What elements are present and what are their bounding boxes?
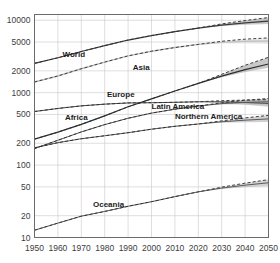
y-tick-label: 10000	[7, 15, 31, 25]
y-tick-label: 1000	[12, 88, 31, 98]
series-label-world: World	[63, 50, 86, 59]
y-tick-label: 50	[21, 182, 31, 192]
x-tick-label: 2010	[165, 243, 184, 253]
x-tick-label: 1980	[95, 243, 114, 253]
x-tick-label: 2050	[259, 243, 278, 253]
chart-canvas: 10205010020050010002000500010000 1950196…	[0, 0, 280, 263]
x-tick-label: 2020	[189, 243, 208, 253]
series-label-oceania: Oceania	[93, 200, 125, 209]
series-label-latin-america: Latin America	[152, 102, 205, 111]
x-tick-label: 1960	[48, 243, 67, 253]
series-label-europe: Europe	[107, 90, 135, 99]
y-tick-label: 5000	[12, 37, 31, 47]
population-log-chart: 10205010020050010002000500010000 1950196…	[0, 0, 280, 263]
x-tick-label: 1970	[72, 243, 91, 253]
x-tick-label: 2000	[142, 243, 161, 253]
y-tick-label: 200	[16, 138, 30, 148]
series-label-asia: Asia	[133, 63, 150, 72]
x-tick-label: 1990	[119, 243, 138, 253]
series-label-africa: Africa	[65, 113, 88, 122]
series-label-northern-america: Northern America	[175, 112, 243, 121]
x-tick-label: 1950	[25, 243, 44, 253]
y-tick-label: 10	[21, 233, 31, 243]
y-tick-label: 100	[16, 160, 30, 170]
x-tick-label: 2030	[212, 243, 231, 253]
y-tick-label: 500	[16, 109, 30, 119]
y-tick-label: 2000	[12, 66, 31, 76]
x-axis-tick-labels: 1950196019701980199020002010202020302040…	[25, 243, 278, 253]
y-tick-label: 20	[21, 211, 31, 221]
x-tick-label: 2040	[236, 243, 255, 253]
